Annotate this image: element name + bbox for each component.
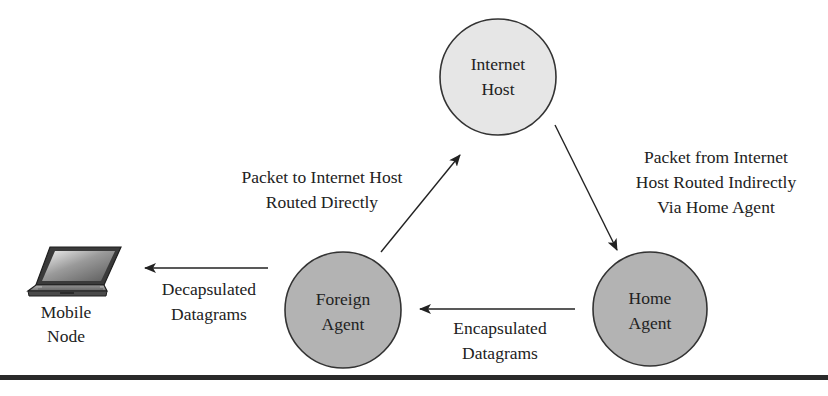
foreign-to-host-label-line2: Routed Directly (266, 192, 379, 212)
mobile-node-label-line2: Node (47, 326, 85, 346)
internet-host-circle (440, 19, 556, 135)
home-agent-label-line2: Agent (629, 313, 672, 333)
foreign-agent-label-line2: Agent (322, 314, 365, 334)
laptop-icon (28, 247, 121, 296)
internet-host-label-line1: Internet (471, 54, 526, 74)
foreign-to-mobile-label-line1: Decapsulated (162, 279, 257, 299)
host-to-home-label-line1: Packet from Internet (644, 147, 788, 167)
home-agent-node: Home Agent (593, 252, 707, 366)
edge-home-to-foreign: Encapsulated Datagrams (420, 309, 575, 363)
mobile-node: Mobile Node (28, 247, 121, 346)
foreign-to-host-label-line1: Packet to Internet Host (242, 167, 403, 187)
foreign-agent-node: Foreign Agent (285, 252, 401, 368)
foreign-to-mobile-label-line2: Datagrams (171, 304, 247, 324)
home-agent-circle (593, 252, 707, 366)
home-to-foreign-label-line1: Encapsulated (453, 318, 547, 338)
foreign-agent-label-line1: Foreign (316, 289, 371, 309)
host-to-home-label-line2: Host Routed Indirectly (636, 172, 797, 192)
internet-host-node: Internet Host (440, 19, 556, 135)
home-to-foreign-label-line2: Datagrams (462, 343, 538, 363)
arrow-host-to-home (555, 125, 617, 250)
mobile-node-label-line1: Mobile (41, 302, 92, 322)
bottom-divider-rule (0, 375, 828, 380)
home-agent-label-line1: Home (629, 288, 672, 308)
foreign-agent-circle (285, 252, 401, 368)
edge-host-to-home: Packet from Internet Host Routed Indirec… (555, 125, 796, 250)
edge-foreign-to-mobile: Decapsulated Datagrams (145, 268, 268, 324)
edge-foreign-to-host: Packet to Internet Host Routed Directly (242, 155, 460, 252)
host-to-home-label-line3: Via Home Agent (657, 197, 775, 217)
internet-host-label-line2: Host (481, 79, 514, 99)
mobile-ip-diagram: Internet Host Home Agent Foreign Agent (0, 0, 828, 396)
